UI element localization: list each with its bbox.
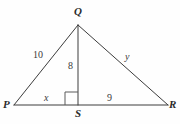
vertex-label-r: R — [169, 99, 176, 110]
vertex-label-p: P — [3, 99, 10, 110]
vertex-label-q: Q — [74, 6, 82, 17]
measure-label-qs: 8 — [68, 61, 73, 71]
measure-label-qr: y — [125, 52, 129, 62]
vertex-label-s: S — [75, 108, 81, 119]
measure-label-pq: 10 — [33, 50, 43, 60]
measure-label-ps: x — [44, 93, 48, 103]
right-angle-marker-at-s — [65, 92, 78, 105]
measure-label-sr: 9 — [107, 93, 112, 103]
triangle-figure — [0, 0, 180, 124]
segment-qr — [78, 25, 168, 105]
geometry-diagram: Q P R S 10 8 y x 9 — [0, 0, 180, 124]
